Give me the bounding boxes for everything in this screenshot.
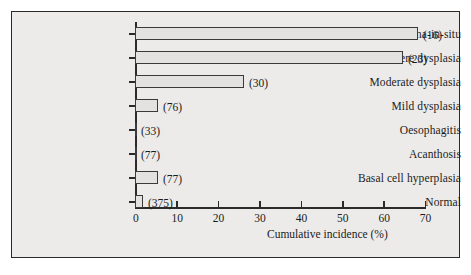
x-axis-tick-30: [259, 201, 261, 207]
x-axis-label-60: 60: [364, 212, 404, 224]
bar-carcinoma-in-situ: [135, 27, 418, 40]
bar-count-moderate-dysplasia: (30): [249, 77, 268, 89]
category-label-acanthosis: Acanthosis: [221, 148, 461, 160]
bar-count-oesophagitis: (33): [141, 125, 160, 137]
x-axis-label-30: 30: [240, 212, 280, 224]
figure: Carcinoma-in-situ Severe dysplasia Moder…: [0, 0, 471, 275]
bar-basal-cell-hyperplasia: [135, 171, 158, 184]
bar-count-acanthosis: (77): [141, 149, 160, 161]
bar-mild-dysplasia: [135, 99, 158, 112]
x-axis-tick-20: [218, 201, 220, 207]
x-axis-label-20: 20: [199, 212, 239, 224]
x-axis-line: [135, 207, 426, 209]
plot-area: Carcinoma-in-situ Severe dysplasia Moder…: [12, 12, 461, 259]
x-axis-label-70: 70: [406, 212, 446, 224]
chart-plate: Carcinoma-in-situ Severe dysplasia Moder…: [11, 11, 460, 258]
x-axis-title: Cumulative incidence (%): [267, 228, 388, 240]
bar-normal: [135, 195, 143, 208]
bar-oesophagitis: [135, 123, 137, 136]
bar-count-severe-dysplasia: (23): [408, 53, 427, 65]
x-axis-tick-60: [383, 201, 385, 207]
bar-count-normal: (375): [148, 197, 173, 209]
bar-acanthosis: [135, 147, 137, 160]
bar-severe-dysplasia: [135, 51, 403, 64]
x-axis-label-0: 0: [116, 212, 156, 224]
bar-count-carcinoma-in-situ: (16): [423, 29, 442, 41]
category-label-mild-dysplasia: Mild dysplasia: [221, 100, 461, 112]
category-label-basal-cell-hyperplasia: Basal cell hyperplasia: [221, 172, 461, 184]
bar-moderate-dysplasia: [135, 75, 244, 88]
bar-count-basal-cell-hyperplasia: (77): [163, 173, 182, 185]
x-axis-tick-40: [301, 201, 303, 207]
bar-count-mild-dysplasia: (76): [163, 101, 182, 113]
category-label-oesophagitis: Oesophagitis: [221, 124, 461, 136]
x-axis-tick-10: [176, 201, 178, 207]
x-axis-tick-50: [342, 201, 344, 207]
x-axis-label-10: 10: [157, 212, 197, 224]
x-axis-tick-70: [425, 201, 427, 207]
x-axis-label-40: 40: [281, 212, 321, 224]
x-axis-label-50: 50: [323, 212, 363, 224]
